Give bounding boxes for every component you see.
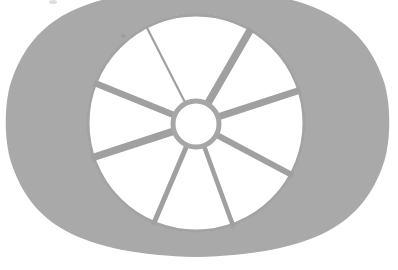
apple-slicer-figure [0,0,398,270]
illustration-canvas: Grayscale line illustration of an apple … [0,0,398,270]
scan-speck-upper-left-interior [121,34,126,38]
scan-speck-top-left [49,0,57,4]
